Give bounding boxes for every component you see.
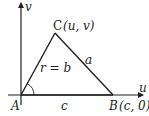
angle-arc-a	[27, 84, 34, 95]
triangle-diagram: v u A B (c, 0) C (u, v) r = b a c	[0, 0, 149, 116]
side-ac-label: r = b	[40, 61, 71, 75]
vertex-b-coords: (c, 0)	[119, 99, 149, 113]
side-bc-label: a	[85, 53, 92, 67]
side-ab-label: c	[61, 99, 68, 113]
vertex-c-coords: (u, v)	[63, 19, 95, 33]
vertex-c-label: C	[53, 19, 62, 33]
v-axis-label: v	[25, 0, 32, 14]
u-axis-label: u	[139, 81, 147, 95]
vertex-b-label: B	[108, 99, 118, 113]
vertex-a-label: A	[10, 99, 20, 113]
